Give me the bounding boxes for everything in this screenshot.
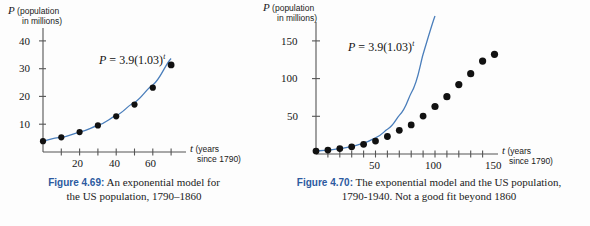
y-axis-title-line1-left: (population <box>15 6 59 16</box>
x-axis-title-line1-right: (years <box>505 146 531 156</box>
caption-text-1-right: The exponential model and the US populat… <box>356 176 562 188</box>
x-tick-label-20-left: 20 <box>72 157 83 169</box>
data-point <box>313 148 320 155</box>
equation-annotation-left: P = 3.9(1.03)t <box>99 52 165 68</box>
y-axis-title-line2-right: in millions) <box>277 13 317 23</box>
data-point <box>491 51 498 58</box>
model-curve-right <box>316 16 435 151</box>
x-axis-title-line2-right: since 1790) <box>509 156 553 166</box>
x-axis-title-line1-left: (years <box>193 144 219 154</box>
y-axis-title-left: P (populationin millions) <box>8 6 62 26</box>
data-point <box>396 127 403 134</box>
caption-label-right: Figure 4.70: <box>297 177 353 188</box>
equation-annotation-right: P = 3.9(1.03)t <box>348 39 414 55</box>
y-tick-label-30-left: 30 <box>19 62 30 74</box>
figure-4-69: P (populationin millions) 10 20 30 40 20… <box>0 0 268 226</box>
data-point <box>384 133 391 140</box>
data-point <box>113 113 119 119</box>
y-tick-label-150-right: 150 <box>281 35 298 47</box>
equation-exponent-left: t <box>163 52 165 61</box>
x-tick-label-50-right: 50 <box>369 159 380 171</box>
data-point <box>40 138 46 144</box>
data-point <box>372 138 379 145</box>
caption-text-1-left: An exponential model for <box>106 176 219 188</box>
data-point <box>455 81 462 88</box>
data-points-right <box>313 51 499 155</box>
y-axis-title-right: P (populationin millions) <box>263 3 317 23</box>
data-point <box>467 70 474 77</box>
caption-line-1-right: Figure 4.70: The exponential model and t… <box>268 176 590 190</box>
textbook-figure-page: P (populationin millions) 10 20 30 40 20… <box>0 0 590 226</box>
y-tick-label-100-right: 100 <box>281 72 298 84</box>
plot-left: P (populationin millions) 10 20 30 40 20… <box>0 0 268 175</box>
x-axis-title-left: t (yearssince 1790) <box>190 144 241 164</box>
x-tick-label-40-left: 40 <box>109 157 120 169</box>
data-point <box>348 143 355 150</box>
data-point <box>431 103 438 110</box>
equation-exponent-right: t <box>412 39 414 48</box>
data-point <box>408 122 415 129</box>
equation-rhs-right: 3.9(1.03) <box>368 40 412 54</box>
y-tick-label-50-right: 50 <box>287 110 298 122</box>
y-axis-title-line1-right: (population <box>270 3 314 13</box>
data-point <box>325 147 332 154</box>
equation-eq-right: = <box>355 40 368 54</box>
y-axis-title-line2-left: in millions) <box>22 16 62 26</box>
data-point <box>420 113 427 120</box>
data-point <box>131 102 137 108</box>
plot-right: P (populationin millions) 50 100 150 50 … <box>268 0 590 175</box>
data-point <box>58 134 64 140</box>
caption-line-1-left: Figure 4.69: An exponential model for <box>0 176 268 190</box>
data-point <box>479 58 486 65</box>
x-tick-label-60-left: 60 <box>145 157 156 169</box>
data-point <box>443 93 450 100</box>
equation-rhs-left: 3.9(1.03) <box>119 53 163 67</box>
data-point <box>150 85 156 91</box>
x-axis-title-right: t (yearssince 1790) <box>502 146 553 166</box>
x-tick-label-100-right: 100 <box>425 159 442 171</box>
caption-4-70: Figure 4.70: The exponential model and t… <box>268 176 590 203</box>
data-point <box>360 141 367 148</box>
caption-line-2-right: 1790-1940. Not a good fit beyond 1860 <box>268 190 590 204</box>
data-point <box>95 122 101 128</box>
data-point <box>77 129 83 135</box>
x-tick-label-150-right: 150 <box>485 159 502 171</box>
y-axis-title-var-right: P <box>263 1 270 13</box>
caption-line-2-left: the US population, 1790–1860 <box>0 190 268 204</box>
caption-4-69: Figure 4.69: An exponential model for th… <box>0 176 268 203</box>
equation-eq-left: = <box>106 53 119 67</box>
y-tick-label-20-left: 20 <box>19 90 30 102</box>
data-point <box>168 62 175 69</box>
caption-label-left: Figure 4.69: <box>48 177 104 188</box>
x-axis-title-line2-left: since 1790) <box>197 154 241 164</box>
y-tick-label-10-left: 10 <box>19 118 30 130</box>
data-points-left <box>40 62 175 145</box>
y-axis-title-var-left: P <box>8 4 15 16</box>
data-point <box>336 145 343 152</box>
model-curve-left <box>43 59 171 142</box>
figure-4-70: P (populationin millions) 50 100 150 50 … <box>268 0 590 226</box>
y-tick-label-40-left: 40 <box>19 35 30 47</box>
